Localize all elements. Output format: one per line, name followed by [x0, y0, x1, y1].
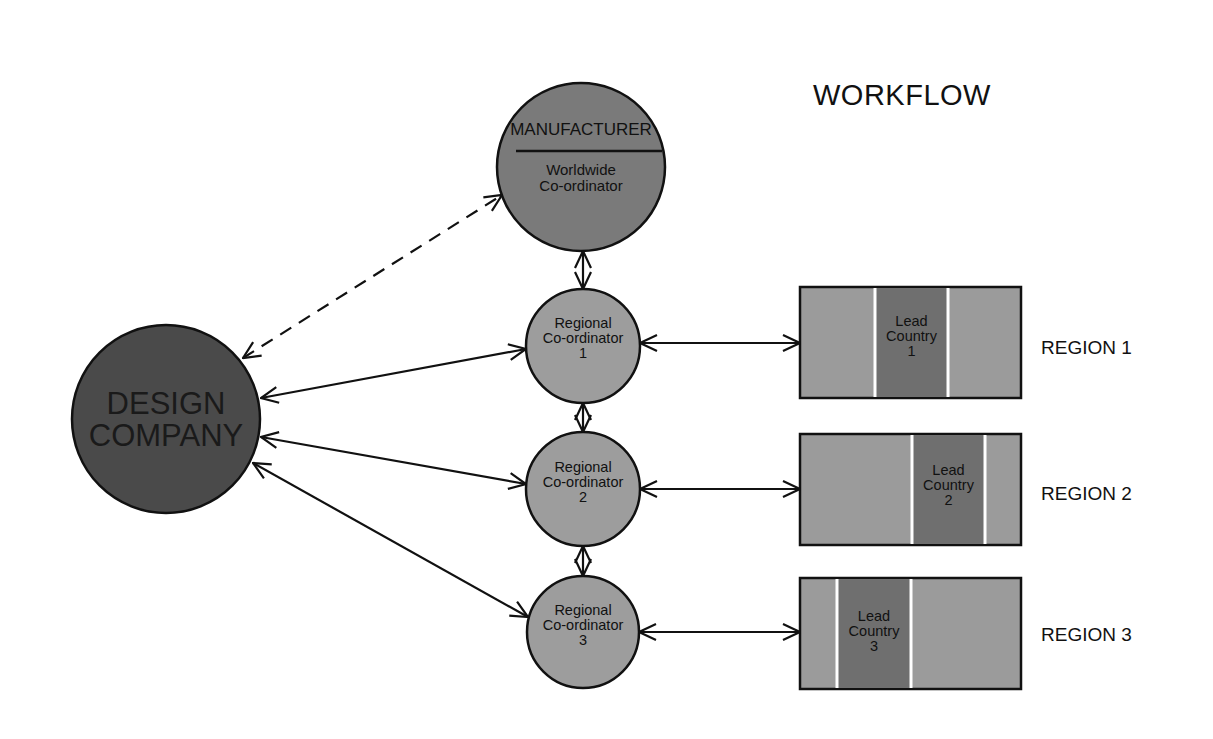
- lead-country-2-line1: Lead: [913, 463, 984, 478]
- lead-country-3-line2: Country: [838, 624, 910, 639]
- design-company-label: DESIGN COMPANY: [72, 388, 260, 451]
- design-company-line2: COMPANY: [72, 420, 260, 452]
- coordinator-label-3: Regional Co-ordinator 3: [526, 603, 640, 649]
- edge-design-coordinator-1: [261, 349, 526, 398]
- coordinator-3-line2: Co-ordinator: [526, 618, 640, 633]
- coordinator-3-line1: Regional: [526, 603, 640, 618]
- coordinator-1-number: 1: [526, 346, 640, 361]
- lead-country-3-line1: Lead: [838, 609, 910, 624]
- manufacturer-subtitle-line1: Worldwide: [497, 162, 665, 178]
- region-label-3: REGION 3: [1041, 624, 1132, 646]
- diagram-title: WORKFLOW: [813, 80, 991, 110]
- edge-design-manufacturer: [243, 195, 502, 358]
- lead-country-label-2: Lead Country 2: [913, 463, 984, 509]
- manufacturer-title: MANUFACTURER: [497, 121, 665, 139]
- lead-country-2-number: 2: [913, 493, 984, 508]
- lead-country-1-number: 1: [876, 344, 947, 359]
- lead-country-label-3: Lead Country 3: [838, 609, 910, 655]
- coordinator-label-1: Regional Co-ordinator 1: [526, 316, 640, 362]
- coordinator-1-line2: Co-ordinator: [526, 331, 640, 346]
- region-label-2: REGION 2: [1041, 483, 1132, 505]
- coordinator-label-2: Regional Co-ordinator 2: [526, 460, 640, 506]
- design-company-line1: DESIGN: [72, 388, 260, 420]
- edge-design-coordinator-2: [261, 437, 526, 484]
- manufacturer-subtitle: Worldwide Co-ordinator: [497, 162, 665, 194]
- manufacturer-subtitle-line2: Co-ordinator: [497, 178, 665, 194]
- coordinator-2-number: 2: [526, 490, 640, 505]
- lead-country-1-line2: Country: [876, 329, 947, 344]
- region-label-1: REGION 1: [1041, 337, 1132, 359]
- lead-country-1-line1: Lead: [876, 314, 947, 329]
- coordinator-2-line2: Co-ordinator: [526, 475, 640, 490]
- region-box-3: [800, 578, 1021, 689]
- region-box-2: [800, 434, 1021, 545]
- coordinator-3-number: 3: [526, 633, 640, 648]
- lead-country-3-number: 3: [838, 639, 910, 654]
- coordinator-2-line1: Regional: [526, 460, 640, 475]
- edge-design-coordinator-3: [253, 463, 528, 617]
- lead-country-label-1: Lead Country 1: [876, 314, 947, 360]
- coordinator-1-line1: Regional: [526, 316, 640, 331]
- lead-country-2-line2: Country: [913, 478, 984, 493]
